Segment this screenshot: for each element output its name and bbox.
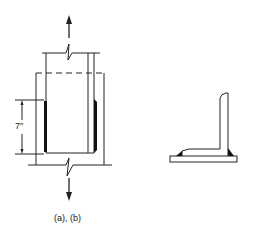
base-plate (170, 156, 237, 162)
weld-diagram (0, 0, 255, 235)
dim-arrow-top (21, 100, 24, 105)
dim-arrow-bottom (21, 149, 24, 154)
angle-section (182, 93, 228, 156)
figure-caption: (a), (b) (54, 213, 81, 223)
weld-right (94, 99, 97, 153)
dimension-label: 7″ (15, 121, 23, 131)
top-break-line (42, 44, 100, 60)
arrow-head-down (66, 192, 72, 201)
weld-left (44, 101, 47, 152)
bottom-break-line (28, 158, 112, 176)
weld-fillet-left (176, 151, 182, 156)
arrow-head-up (66, 15, 72, 24)
weld-fillet-right (228, 148, 234, 156)
